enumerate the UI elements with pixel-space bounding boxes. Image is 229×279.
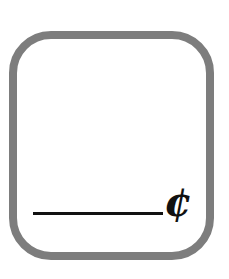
worksheet-canvas: ¢ — [0, 0, 229, 279]
cent-sign-icon: ¢ — [162, 178, 194, 226]
answer-blank-line[interactable] — [33, 212, 163, 215]
